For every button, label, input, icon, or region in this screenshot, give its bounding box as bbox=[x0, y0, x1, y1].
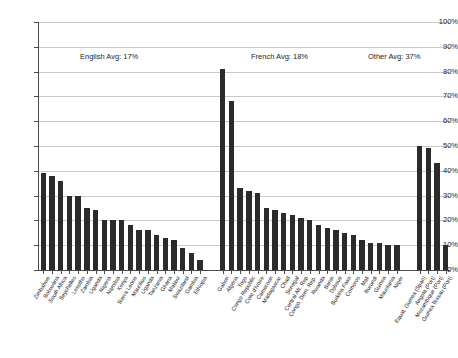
x-axis-tick-mark bbox=[139, 271, 140, 274]
bar bbox=[255, 193, 260, 270]
x-axis-tick-mark bbox=[157, 271, 158, 274]
bar bbox=[333, 230, 338, 270]
y-axis-tick-mark bbox=[34, 196, 38, 197]
x-axis-tick-mark bbox=[446, 271, 447, 274]
x-axis-tick-mark bbox=[371, 271, 372, 274]
y-axis-tick-mark bbox=[34, 22, 38, 23]
x-axis-tick-mark bbox=[104, 271, 105, 274]
x-axis-tick-mark bbox=[353, 271, 354, 274]
bar bbox=[49, 176, 54, 270]
x-axis-tick-mark bbox=[87, 271, 88, 274]
bar bbox=[110, 220, 115, 270]
bar bbox=[145, 230, 150, 270]
y-axis-tick-mark bbox=[34, 220, 38, 221]
bar bbox=[189, 253, 194, 270]
bar bbox=[229, 101, 234, 270]
x-axis-tick-mark bbox=[397, 271, 398, 274]
y-axis-tick-mark bbox=[34, 96, 38, 97]
bar bbox=[180, 248, 185, 270]
x-axis-tick-mark bbox=[113, 271, 114, 274]
x-axis-tick-mark bbox=[420, 271, 421, 274]
x-axis-tick-mark bbox=[310, 271, 311, 274]
bar bbox=[220, 69, 225, 270]
x-axis-tick-mark bbox=[258, 271, 259, 274]
bar bbox=[377, 243, 382, 270]
average-annotation: English Avg: 17% bbox=[80, 52, 138, 61]
bar bbox=[342, 233, 347, 270]
x-axis-tick-mark bbox=[43, 271, 44, 274]
x-axis-tick-mark bbox=[165, 271, 166, 274]
average-annotation: Other Avg: 37% bbox=[368, 52, 420, 61]
x-axis-tick-mark bbox=[275, 271, 276, 274]
x-axis-tick-mark bbox=[148, 271, 149, 274]
bar bbox=[368, 243, 373, 270]
x-axis-tick-mark bbox=[319, 271, 320, 274]
x-axis-tick-mark bbox=[191, 271, 192, 274]
y-axis-tick-mark bbox=[34, 47, 38, 48]
bar bbox=[58, 181, 63, 270]
x-axis-tick-mark bbox=[336, 271, 337, 274]
x-axis-tick-mark bbox=[78, 271, 79, 274]
y-axis-tick-mark bbox=[34, 171, 38, 172]
bar-chart: 100%90%80%70%60%50%40%30%20%10%0% Zimbab… bbox=[0, 0, 458, 358]
average-annotation: French Avg: 18% bbox=[251, 52, 308, 61]
bar bbox=[264, 208, 269, 270]
x-axis-tick-mark bbox=[362, 271, 363, 274]
x-axis-tick-mark bbox=[266, 271, 267, 274]
x-axis-tick-mark bbox=[284, 271, 285, 274]
y-axis-tick-mark bbox=[34, 72, 38, 73]
x-axis-tick-mark bbox=[96, 271, 97, 274]
x-axis-tick-mark bbox=[183, 271, 184, 274]
y-axis-tick-mark bbox=[34, 146, 38, 147]
x-axis-tick-mark bbox=[52, 271, 53, 274]
bar bbox=[417, 146, 422, 270]
bar bbox=[272, 210, 277, 270]
x-axis-tick-mark bbox=[327, 271, 328, 274]
bar bbox=[128, 225, 133, 270]
x-axis-tick-mark bbox=[292, 271, 293, 274]
x-axis-tick-mark bbox=[345, 271, 346, 274]
x-axis-tick-mark bbox=[223, 271, 224, 274]
bar bbox=[136, 230, 141, 270]
x-axis-tick-mark bbox=[69, 271, 70, 274]
bar bbox=[351, 235, 356, 270]
bar bbox=[67, 196, 72, 270]
x-axis-tick-mark bbox=[122, 271, 123, 274]
x-axis-tick-mark bbox=[437, 271, 438, 274]
bar bbox=[102, 220, 107, 270]
bar bbox=[93, 210, 98, 270]
bar bbox=[307, 220, 312, 270]
x-axis-tick-mark bbox=[231, 271, 232, 274]
bar bbox=[197, 260, 202, 270]
x-axis-tick-mark bbox=[249, 271, 250, 274]
bar bbox=[385, 245, 390, 270]
bar bbox=[298, 218, 303, 270]
bar bbox=[434, 163, 439, 270]
x-axis-tick-mark bbox=[200, 271, 201, 274]
y-axis-tick-mark bbox=[34, 245, 38, 246]
bar bbox=[316, 225, 321, 270]
bar bbox=[84, 208, 89, 270]
bar bbox=[119, 220, 124, 270]
bar bbox=[246, 191, 251, 270]
x-axis-tick-mark bbox=[379, 271, 380, 274]
bar bbox=[75, 196, 80, 270]
x-axis-tick-mark bbox=[174, 271, 175, 274]
bar bbox=[325, 228, 330, 270]
bar bbox=[171, 240, 176, 270]
bar bbox=[359, 240, 364, 270]
x-axis-tick-mark bbox=[130, 271, 131, 274]
bar bbox=[394, 245, 399, 270]
y-axis-tick-mark bbox=[34, 270, 38, 271]
bar bbox=[290, 215, 295, 270]
x-axis-tick-mark bbox=[388, 271, 389, 274]
bar bbox=[443, 245, 448, 270]
bar bbox=[426, 148, 431, 270]
x-axis-tick-mark bbox=[240, 271, 241, 274]
bar bbox=[281, 213, 286, 270]
x-axis-tick-mark bbox=[301, 271, 302, 274]
bar bbox=[154, 235, 159, 270]
x-axis-tick-mark bbox=[61, 271, 62, 274]
bar bbox=[163, 238, 168, 270]
bar bbox=[41, 173, 46, 270]
